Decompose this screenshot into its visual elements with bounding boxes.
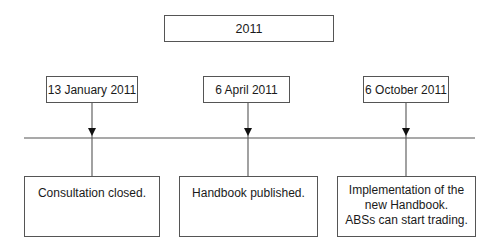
event-text: ABSs can start trading. xyxy=(338,213,475,228)
year-title-box: 2011 xyxy=(164,15,334,42)
event-text: Handbook published. xyxy=(180,186,317,200)
milestone-date: 6 October 2011 xyxy=(365,83,447,97)
arrow-down-icon xyxy=(88,128,96,136)
milestone-event-box: Consultation closed. xyxy=(24,176,160,237)
event-text: Consultation closed. xyxy=(25,186,159,200)
milestone-date-box: 13 January 2011 xyxy=(46,76,138,103)
milestone-event-box: Implementation of the new Handbook. ABSs… xyxy=(337,176,476,237)
event-text: Implementation of the xyxy=(338,183,475,198)
milestone-date-box: 6 October 2011 xyxy=(363,76,449,103)
arrow-down-icon xyxy=(402,128,410,136)
milestone-event-box: Handbook published. xyxy=(179,176,318,237)
arrow-down-icon xyxy=(244,128,252,136)
year-title: 2011 xyxy=(236,22,263,36)
milestone-date: 6 April 2011 xyxy=(215,83,278,97)
event-text: new Handbook. xyxy=(338,198,475,213)
milestone-date-box: 6 April 2011 xyxy=(203,76,290,103)
milestone-date: 13 January 2011 xyxy=(48,83,137,97)
